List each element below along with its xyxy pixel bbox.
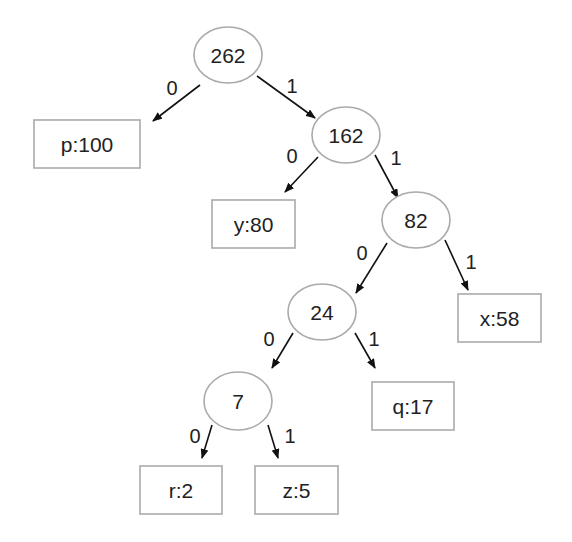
- node-weight: 7: [232, 390, 244, 413]
- node-weight: 262: [210, 44, 245, 67]
- edge-label-1: 1: [390, 147, 401, 169]
- edge-262-to-162: 1: [257, 75, 315, 118]
- leaf-node-z: z:5: [255, 466, 338, 514]
- edge-label-0: 0: [286, 145, 297, 167]
- edge-label-0: 0: [356, 242, 367, 264]
- edge-arrow: [202, 425, 212, 458]
- internal-node-24: 24: [288, 284, 356, 340]
- edge-arrow: [272, 333, 293, 368]
- leaf-label: y:80: [234, 213, 274, 236]
- edge-82-to-x: 1: [445, 240, 477, 290]
- node-weight: 82: [404, 209, 427, 232]
- edge-label-0: 0: [263, 328, 274, 350]
- leaf-node-y: y:80: [212, 200, 295, 248]
- leaf-node-r: r:2: [140, 466, 222, 514]
- leaf-label: x:58: [480, 307, 520, 330]
- leaf-node-x: x:58: [458, 294, 541, 342]
- internal-node-262: 262: [194, 27, 262, 83]
- leaf-label: z:5: [282, 479, 310, 502]
- edge-label-0: 0: [189, 425, 200, 447]
- edge-162-to-82: 1: [375, 147, 402, 198]
- edge-label-1: 1: [465, 251, 476, 273]
- edge-162-to-y: 0: [285, 145, 318, 192]
- leaf-label: q:17: [393, 395, 434, 418]
- leaf-label: r:2: [169, 479, 194, 502]
- edge-82-to-24: 0: [356, 242, 387, 293]
- edge-arrow: [268, 425, 278, 458]
- edge-label-1: 1: [284, 425, 295, 447]
- node-weight: 162: [328, 124, 363, 147]
- edge-7-to-z: 1: [268, 425, 296, 458]
- node-weight: 24: [310, 301, 334, 324]
- edge-24-to-q: 1: [355, 328, 380, 368]
- edge-label-1: 1: [286, 75, 297, 97]
- internal-node-82: 82: [382, 192, 450, 248]
- leaf-node-p: p:100: [34, 120, 140, 168]
- edge-262-to-p: 0: [153, 77, 200, 121]
- huffman-tree-diagram: 0 1 0 1 0 1 0 1 0 1 262 162: [0, 0, 572, 542]
- leaf-node-q: q:17: [372, 382, 454, 430]
- edge-label-1: 1: [368, 328, 379, 350]
- edge-24-to-7: 0: [263, 328, 293, 368]
- leaf-label: p:100: [61, 133, 114, 156]
- internal-node-7: 7: [204, 372, 272, 430]
- edge-7-to-r: 0: [189, 425, 212, 458]
- edge-label-0: 0: [166, 77, 177, 99]
- internal-node-162: 162: [312, 107, 380, 163]
